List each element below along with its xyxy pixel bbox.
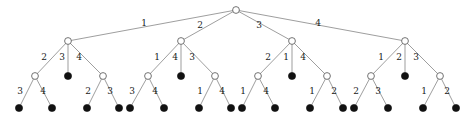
node-layer <box>15 7 459 112</box>
edge-label: 1 <box>141 18 147 28</box>
edge-label: 2 <box>265 52 271 62</box>
tree-node-leaf <box>15 104 22 111</box>
edge-label: 3 <box>129 86 135 96</box>
edge-label: 4 <box>152 86 158 96</box>
tree-node-leaf <box>177 72 184 79</box>
edge-label: 4 <box>219 86 225 96</box>
edge-label: 1 <box>283 52 289 62</box>
edge-label: 2 <box>85 86 91 96</box>
tree-node-internal <box>65 38 72 45</box>
tree-node-leaf <box>126 104 133 111</box>
edge-label: 2 <box>353 86 359 96</box>
tree-node-internal <box>178 38 185 45</box>
edge-label: 1 <box>154 52 160 62</box>
edge-label: 1 <box>421 86 427 96</box>
tree-diagram-canvas: 12342341432141233423341414122312 <box>0 0 473 119</box>
tree-node-leaf <box>227 104 234 111</box>
tree-node-leaf <box>384 104 391 111</box>
tree-node-internal <box>289 38 296 45</box>
edge-label: 3 <box>59 52 65 62</box>
edge-label: 1 <box>309 86 315 96</box>
edge-label: 2 <box>444 86 450 96</box>
edge-label: 2 <box>197 20 203 30</box>
edge-label: 4 <box>172 52 178 62</box>
edge-label: 1 <box>378 52 384 62</box>
tree-node-leaf <box>64 72 71 79</box>
tree-node-internal <box>145 73 152 80</box>
tree-node-leaf <box>271 104 278 111</box>
tree-edge <box>68 41 103 76</box>
tree-edge <box>292 41 327 76</box>
tree-node-internal <box>324 73 331 80</box>
tree-node-internal <box>32 73 39 80</box>
tree-node-leaf <box>401 72 408 79</box>
edge-label: 2 <box>396 52 402 62</box>
tree-node-leaf <box>288 72 295 79</box>
tree-edge <box>236 10 292 41</box>
tree-node-leaf <box>83 104 90 111</box>
edge-label: 3 <box>256 20 262 30</box>
tree-edge <box>181 41 215 76</box>
edge-label: 4 <box>315 18 321 28</box>
tree-node-internal <box>212 73 219 80</box>
tree-node-internal <box>368 73 375 80</box>
edge-label: 3 <box>375 86 381 96</box>
tree-node-leaf <box>350 104 357 111</box>
edge-label: 3 <box>189 52 195 62</box>
tree-node-leaf <box>195 104 202 111</box>
tree-node-leaf <box>238 104 245 111</box>
edge-label: 3 <box>107 86 113 96</box>
edge-label: 4 <box>300 52 306 62</box>
tree-edge <box>68 10 236 41</box>
tree-node-leaf <box>419 104 426 111</box>
edge-label: 3 <box>413 52 419 62</box>
tree-node-leaf <box>48 104 55 111</box>
tree-node-internal <box>100 73 107 80</box>
edge-label: 2 <box>331 86 337 96</box>
edge-label: 2 <box>41 52 47 62</box>
tree-node-leaf <box>452 104 459 111</box>
tree-edge <box>405 41 440 76</box>
tree-node-root <box>233 7 240 14</box>
edge-label: 4 <box>40 86 46 96</box>
edge-label: 4 <box>76 52 82 62</box>
tree-node-internal <box>437 73 444 80</box>
tree-node-internal <box>255 73 262 80</box>
edge-label: 1 <box>240 86 246 96</box>
tree-node-leaf <box>115 104 122 111</box>
edge-label: 3 <box>17 86 23 96</box>
edge-label: 4 <box>263 86 269 96</box>
tree-diagram-figure: 12342341432141233423341414122312 <box>0 0 473 119</box>
tree-node-leaf <box>306 104 313 111</box>
tree-node-leaf <box>160 104 167 111</box>
tree-node-leaf <box>339 104 346 111</box>
edge-label-layer: 12342341432141233423341414122312 <box>17 18 450 96</box>
edge-label: 1 <box>197 86 203 96</box>
tree-node-internal <box>402 38 409 45</box>
